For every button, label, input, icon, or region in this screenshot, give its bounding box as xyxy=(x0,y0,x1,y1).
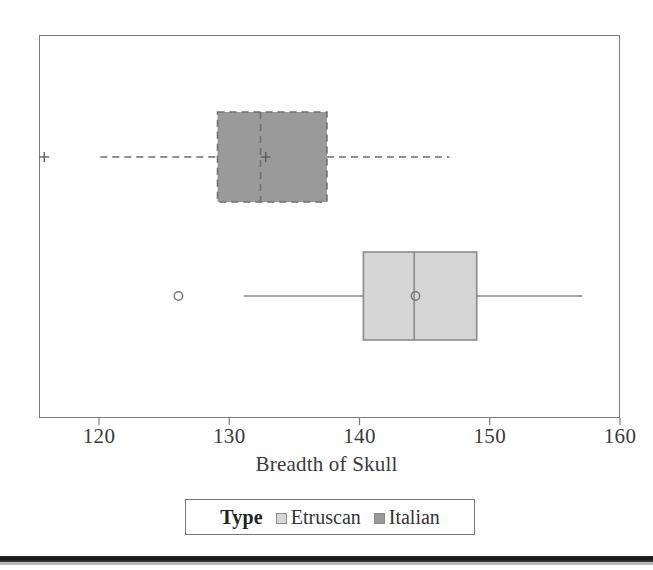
legend-entry-italian[interactable]: Italian xyxy=(374,506,440,529)
legend-title: Type xyxy=(220,506,263,529)
axis-tick-label-120: 120 xyxy=(83,424,115,449)
axis-title-breadth-of-skull: Breadth of Skull xyxy=(0,452,653,477)
legend-swatch-etruscan-icon xyxy=(276,513,287,524)
scan-artifact-fade xyxy=(0,562,653,565)
plot-frame xyxy=(39,35,620,418)
axis-tick-label-150: 150 xyxy=(474,424,506,449)
legend-label-etruscan: Etruscan xyxy=(291,506,361,529)
axis-tick-label-140: 140 xyxy=(343,424,375,449)
legend-label-italian: Italian xyxy=(389,506,440,529)
legend-swatch-italian-icon xyxy=(374,513,385,524)
legend: Type Etruscan Italian xyxy=(185,499,475,535)
legend-entry-etruscan[interactable]: Etruscan xyxy=(276,506,361,529)
axis-tick-label-130: 130 xyxy=(213,424,245,449)
boxplot-figure: 120130140150160 Breadth of Skull Type Et… xyxy=(0,0,653,570)
axis-tick-label-160: 160 xyxy=(604,424,636,449)
